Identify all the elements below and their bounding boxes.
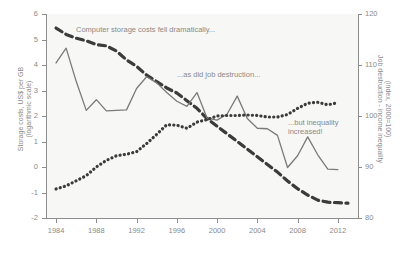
annotation-inequality: ...but inequality bbox=[288, 118, 338, 127]
series-computer-storage-costs bbox=[56, 28, 348, 203]
annotation-inequality-second-line: increased! bbox=[288, 127, 323, 136]
annotation-storage-costs: Computer storage costs fell dramatically… bbox=[76, 25, 215, 34]
annotation-job-destruction: ...as did job destruction... bbox=[177, 70, 260, 79]
chart-figure: 6543210-1-2 1201101009080 19841988199219… bbox=[0, 0, 408, 262]
series-income-inequality bbox=[56, 102, 338, 189]
data-series-layer bbox=[0, 0, 408, 262]
